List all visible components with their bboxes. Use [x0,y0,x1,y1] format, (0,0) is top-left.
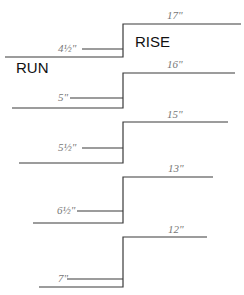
run-label: RUN [16,59,49,76]
step-4 [33,177,213,223]
rise-value-4: 6½" [57,204,75,216]
rise-label: RISE [135,33,170,50]
rise-value-5: 7" [58,272,68,284]
rise-value-3: 5½" [58,141,76,153]
run-value-4: 13" [168,162,184,174]
step-3 [19,122,228,163]
run-value-2: 16" [167,58,183,70]
run-value-1: 17" [167,9,183,21]
run-value-5: 12" [168,223,184,235]
rise-value-1: 4½" [58,42,76,54]
run-value-3: 15" [167,108,183,120]
step-1 [5,24,241,57]
step-2 [12,73,235,108]
stair-diagram [0,0,244,295]
rise-value-2: 5" [58,91,68,103]
